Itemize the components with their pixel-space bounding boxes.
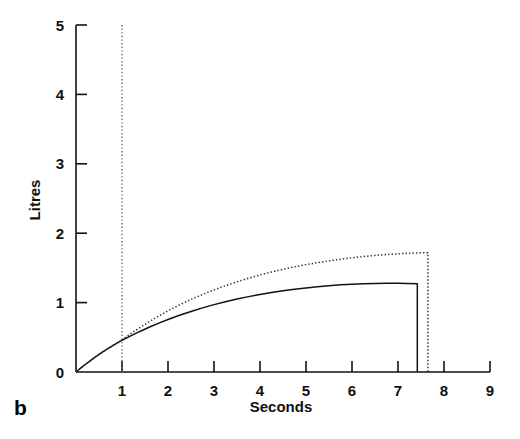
y-axis-tick-labels: 012345 xyxy=(56,17,65,381)
figure-panel-b: 012345 123456789 Litres Seconds b xyxy=(0,0,520,439)
chart-series xyxy=(76,253,428,372)
x-tick-label: 6 xyxy=(348,382,356,399)
y-tick-label: 3 xyxy=(56,155,64,172)
y-axis-title: Litres xyxy=(26,180,43,221)
x-tick-label: 5 xyxy=(302,382,310,399)
x-axis-title: Seconds xyxy=(250,398,313,415)
x-tick-label: 2 xyxy=(164,382,172,399)
volume-time-chart: 012345 123456789 Litres Seconds b xyxy=(0,0,520,439)
y-tick-label: 1 xyxy=(56,294,64,311)
x-tick-label: 8 xyxy=(440,382,448,399)
y-tick-label: 5 xyxy=(56,17,64,34)
y-tick-label: 0 xyxy=(56,364,64,381)
y-tick-label: 4 xyxy=(56,86,65,103)
panel-label: b xyxy=(14,396,27,419)
x-tick-label: 7 xyxy=(394,382,402,399)
x-tick-label: 9 xyxy=(486,382,494,399)
axes xyxy=(76,25,490,372)
y-axis-ticks xyxy=(76,25,87,303)
x-axis-ticks xyxy=(122,361,490,372)
solid-curve xyxy=(76,283,417,372)
x-axis-tick-labels: 123456789 xyxy=(118,382,494,399)
y-tick-label: 2 xyxy=(56,225,64,242)
x-tick-label: 1 xyxy=(118,382,126,399)
x-tick-label: 4 xyxy=(256,382,265,399)
dotted-curve xyxy=(76,253,428,372)
x-tick-label: 3 xyxy=(210,382,218,399)
